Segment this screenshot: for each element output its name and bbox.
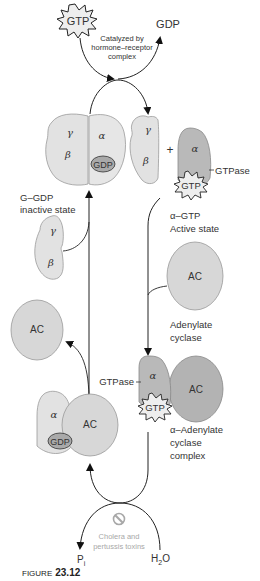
plus-sign: + (166, 143, 173, 157)
gtpase-label-active: GTPase (215, 165, 250, 176)
adenylate-cyclase-free: AC (167, 242, 223, 310)
gtp-label-active: GTP (181, 180, 201, 191)
catalyst-text-3: complex (108, 52, 136, 61)
connector-beta-gamma (63, 222, 89, 251)
adenylate-label: Adenylate (170, 319, 212, 330)
alpha-gdp-ac-complex: α AC GDP (37, 391, 118, 456)
gdp-label-top: GDP (156, 18, 180, 30)
toxin-text-2: pertussis toxins (93, 542, 145, 551)
h2o-label: H2O (151, 553, 170, 566)
ac-label-bottom: AC (83, 419, 97, 430)
alpha-subunit (89, 115, 126, 185)
gtp-label-complex: GTP (145, 402, 165, 413)
gtpase-label-complex: GTPase (99, 376, 134, 387)
cyclase-label-complex: cyclase (170, 437, 202, 448)
arrow-to-complex (148, 198, 160, 354)
beta-label-released: β (47, 257, 54, 268)
released-ac: AC (11, 300, 89, 396)
ac-label-released: AC (30, 324, 44, 335)
alpha-label-active: α (192, 143, 199, 154)
alpha-adenylate-label: α–Adenylate (170, 424, 223, 435)
catalyst-text-1: Catalyzed by (100, 34, 144, 43)
gamma-label-free: γ (145, 124, 151, 135)
top-cycle: GTP GDP Catalyzed by hormone–receptor co… (57, 4, 180, 114)
active-state-label: Active state (170, 223, 219, 234)
figure-caption: FIGURE23.12 (22, 567, 81, 578)
inactive-state-label: inactive state (20, 204, 75, 215)
arrow-ac-release (67, 342, 89, 396)
released-beta-gamma: γ β (35, 216, 89, 280)
ac-label-complex: AC (189, 384, 203, 395)
inhibit-icon (114, 514, 125, 525)
toxin-text-1: Cholera and (99, 532, 140, 541)
gtp-star-icon: GTP (57, 4, 97, 38)
connector-ac (148, 286, 167, 295)
complex-label: complex (170, 450, 206, 461)
alpha-gtp-active: α GTP GTPase (174, 128, 250, 200)
g-gdp-label: G–GDP (20, 192, 53, 203)
pi-label: Pi (77, 554, 86, 567)
free-beta-gamma: γ β (130, 116, 159, 184)
gdp-label-bottom: GDP (50, 437, 70, 447)
gtp-label-top: GTP (67, 15, 90, 27)
alpha-adenylate-cyclase-complex: AC α GTP GTPase (99, 356, 223, 422)
ac-label-free: AC (188, 271, 202, 282)
gamma-label-released: γ (50, 225, 56, 236)
beta-label-free: β (142, 155, 149, 166)
alpha-label: α (99, 130, 106, 141)
beta-label: β (64, 149, 71, 160)
catalyst-text-2: hormone–receptor (91, 43, 153, 52)
alpha-label-gdp: α (51, 409, 58, 420)
alpha-label-complex: α (150, 370, 157, 381)
g-protein-cycle-diagram: GTP GDP Catalyzed by hormone–receptor co… (0, 0, 260, 581)
cyclase-label: cyclase (170, 332, 202, 343)
gdp-label-inactive: GDP (93, 160, 113, 170)
inactive-g-protein-complex: γ β α GDP (46, 114, 126, 185)
gamma-label: γ (67, 127, 73, 138)
alpha-gtp-label: α–GTP (170, 210, 200, 221)
arrow-dissociation (90, 80, 148, 114)
